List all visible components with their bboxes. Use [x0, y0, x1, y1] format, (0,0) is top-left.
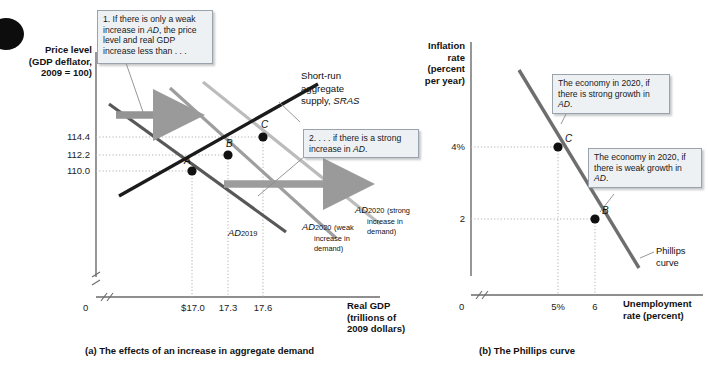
ad2020-weak-line1: AD2020 (weak	[302, 222, 364, 234]
panel-b-gridlines	[471, 147, 595, 295]
panel-a-point-label-b: B	[226, 138, 233, 149]
ad2020-strong-curve-label: AD2020 (strong increase in demand)	[355, 205, 417, 238]
panel-a-point-label-c: C	[261, 119, 268, 130]
callout-weak-growth: The economy in 2020, if there is weak gr…	[588, 148, 702, 188]
phillips-curve-label: Phillips curve	[656, 245, 704, 269]
figure-container: Price level (GDP deflator, 2009 = 100) R…	[0, 0, 708, 379]
panel-b-origin-label: 0	[459, 301, 464, 312]
panel-a-x-axis-title: Real GDP (trillions of 2009 dollars)	[347, 300, 409, 335]
panel-b-y-axis-title: Inflation rate (percent per year)	[405, 40, 465, 86]
ad2019-curve-label: AD2019	[228, 228, 257, 240]
panel-a-ytick-114: 114.4	[58, 131, 90, 142]
panel-a-xtick-170: $17.0	[174, 302, 212, 313]
panel-a-ytick-112: 112.2	[58, 149, 90, 160]
sras-label-line3: supply, SRAS	[301, 95, 396, 108]
panel-b-ytick-2: 2	[436, 213, 465, 224]
panel-b-caption: (b) The Phillips curve	[479, 345, 575, 356]
ad2020-weak-curve-label: AD2020 (weak increase in demand)	[302, 222, 364, 255]
curve-sras	[119, 84, 318, 196]
sras-acronym: SRAS	[333, 95, 359, 106]
panel-b-xtick-5: 5%	[542, 301, 574, 312]
point-a	[187, 166, 196, 175]
panel-b-point-label-c: C	[565, 133, 572, 144]
panel-a-ytick-110: 110.0	[58, 165, 90, 176]
panel-a-xtick-176: 17.6	[246, 302, 280, 313]
panel-b-point-b	[590, 214, 599, 223]
panel-b-xtick-6: 6	[583, 301, 607, 312]
callout-weak-increase: 1. If there is only a weak increase in A…	[97, 10, 213, 64]
panel-b-ytick-4: 4%	[436, 141, 465, 152]
callout-strong-increase: 2. . . . if there is a strong increase i…	[303, 129, 419, 158]
panel-b-point-label-b: B	[602, 205, 609, 216]
sras-curve-label: Short-run aggregate supply, SRAS	[301, 70, 396, 108]
panel-b-point-c	[553, 142, 562, 151]
callout-strong-growth: The economy in 2020, if there is strong …	[552, 74, 670, 114]
curve-ad2020-weak	[170, 88, 336, 238]
ad2020-strong-line1: AD2020 (strong	[355, 205, 417, 217]
panel-a-y-axis-title: Price level (GDP deflator, 2009 = 100)	[22, 44, 92, 79]
panel-a-origin-label: 0	[83, 302, 88, 313]
point-b	[223, 150, 232, 159]
panel-a-xtick-173: 17.3	[211, 302, 245, 313]
panel-b-x-axis-title: Unemployment rate (percent)	[623, 298, 707, 321]
panel-a-point-label-a: A	[184, 155, 191, 166]
point-c	[258, 132, 267, 141]
panel-a-caption: (a) The effects of an increase in aggreg…	[85, 345, 314, 356]
